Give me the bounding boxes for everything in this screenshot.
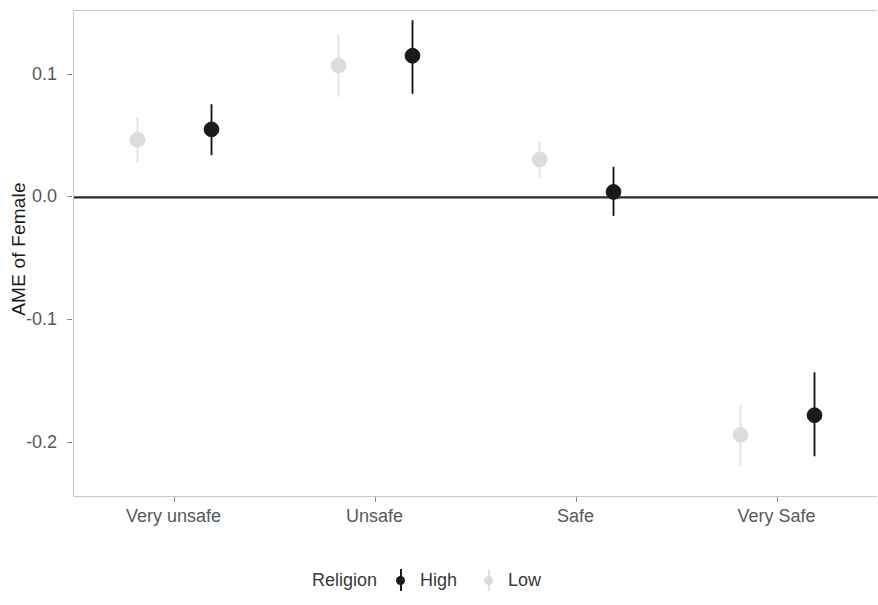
legend-title: Religion (312, 570, 377, 591)
x-axis-tick-mark (576, 497, 577, 502)
y-axis-tick-label: -0.1 (0, 309, 57, 330)
x-axis-tick-label: Very unsafe (126, 506, 221, 527)
y-axis-tick-label: -0.2 (0, 431, 57, 452)
data-point[interactable] (606, 185, 621, 200)
x-axis-tick-label: Very Safe (737, 506, 815, 527)
series-low (130, 34, 748, 465)
legend-key-high[interactable]: High (393, 569, 457, 591)
data-point[interactable] (532, 152, 547, 167)
x-axis-tick-label: Safe (557, 506, 594, 527)
legend-key-low[interactable]: Low (481, 569, 541, 591)
y-axis-tick-label: 0.1 (0, 63, 57, 84)
series-high (204, 20, 822, 456)
x-axis-tick-label: Unsafe (346, 506, 403, 527)
x-axis-tick-mark (375, 497, 376, 502)
data-point[interactable] (130, 132, 145, 147)
chart-legend: Religion High Low (0, 560, 877, 600)
y-axis-tick-mark (67, 442, 72, 443)
x-axis-tick-mark (174, 497, 175, 502)
legend-marker-low-icon (481, 569, 497, 591)
data-point[interactable] (204, 122, 219, 137)
y-axis-tick-label: 0.0 (0, 186, 57, 207)
y-axis-tick-mark (67, 319, 72, 320)
y-axis-tick-mark (67, 74, 72, 75)
legend-marker-high-icon (393, 569, 409, 591)
data-point[interactable] (807, 408, 822, 423)
y-axis-tick-mark (67, 196, 72, 197)
plot-area (74, 11, 878, 498)
legend-label-high: High (420, 570, 457, 591)
data-point[interactable] (331, 58, 346, 73)
x-axis-tick-mark (777, 497, 778, 502)
plot-panel (73, 10, 877, 497)
data-point[interactable] (733, 427, 748, 442)
legend-label-low: Low (508, 570, 541, 591)
data-point[interactable] (405, 48, 420, 63)
